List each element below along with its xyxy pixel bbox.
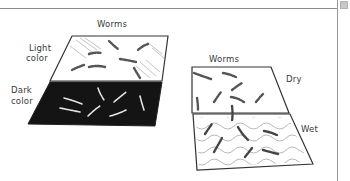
left-worms-label: Worms: [97, 19, 127, 29]
light-color-surface: [50, 36, 168, 81]
wet-label: Wet: [301, 124, 318, 134]
dark-label-line1: Dark: [11, 85, 32, 95]
light-label-line2: color: [26, 53, 48, 63]
dark-color-surface: [28, 82, 162, 126]
wet-surface: [193, 106, 313, 170]
dark-label-line2: color: [11, 96, 33, 106]
dry-label: Dry: [286, 74, 302, 84]
right-worms-label: Worms: [209, 54, 239, 64]
light-label-line1: Light: [29, 43, 51, 53]
dry-surface: [192, 67, 289, 113]
worm-choice-diagram: [0, 0, 350, 181]
